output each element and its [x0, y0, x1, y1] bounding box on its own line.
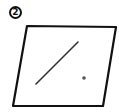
line-segment [36, 42, 78, 84]
point [82, 76, 86, 80]
plane-parallelogram [13, 26, 116, 106]
plane-diagram [0, 0, 119, 112]
